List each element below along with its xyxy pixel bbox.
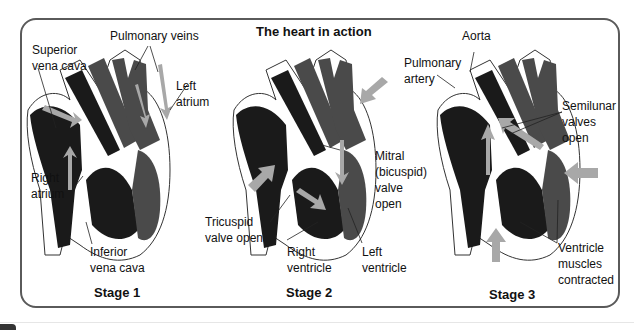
- label-tricuspid-valve: Tricuspid valve open: [205, 214, 263, 246]
- heart-illustrations: [0, 0, 634, 330]
- figure-title: The heart in action: [256, 24, 372, 39]
- stage-2-label: Stage 2: [286, 285, 332, 300]
- label-mitral-valve: Mitral (bicuspid) valve open: [375, 148, 427, 212]
- label-inferior-vena-cava: Inferior vena cava: [90, 244, 145, 276]
- label-left-atrium: Left atrium: [176, 78, 209, 110]
- label-pulmonary-veins: Pulmonary veins: [110, 28, 199, 44]
- label-ventricle-muscles: Ventricle muscles contracted: [558, 240, 614, 288]
- stage-1-label: Stage 1: [94, 285, 140, 300]
- stage-3-label: Stage 3: [489, 287, 535, 302]
- label-left-ventricle: Left ventricle: [362, 244, 407, 276]
- label-pulmonary-artery: Pulmonary artery: [404, 55, 461, 87]
- label-superior-vena-cava: Superior vena cava: [32, 42, 87, 74]
- label-right-atrium: Right atrium: [31, 170, 64, 202]
- label-aorta: Aorta: [462, 28, 491, 44]
- label-right-ventricle: Right ventricle: [287, 244, 332, 276]
- label-semilunar-valves: Semilunar valves open: [562, 98, 616, 146]
